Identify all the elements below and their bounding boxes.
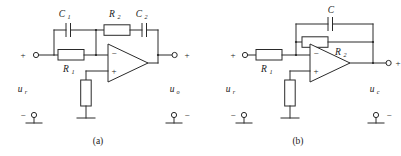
circuit-a-output-plus-sign: + (184, 50, 189, 60)
circuit-a-label-r1-sub: 1 (71, 68, 74, 75)
circuit-a-label-r1: R (62, 64, 69, 74)
circuit-b-resistor-bias (285, 80, 296, 106)
circuit-b-label-c: C (328, 5, 335, 15)
circuit-a-node-output (157, 54, 159, 56)
circuit-b-label-r2-sub: 2 (343, 51, 346, 58)
schematic-canvas: + C 1 R 1 (0, 0, 401, 156)
figure-root: + C 1 R 1 (0, 0, 401, 156)
circuit-a-output-ground-terminal[interactable] (171, 112, 176, 117)
circuit-b-caption: (b) (292, 136, 303, 147)
circuit-a-label-c1: C (59, 9, 66, 19)
circuit-b-input-voltage-label: u (226, 84, 231, 94)
circuit-a-input-voltage-label: u (18, 84, 23, 94)
circuit-a-caption: (a) (93, 136, 104, 147)
circuit-a-opamp-inverting-sign: − (111, 48, 116, 58)
circuit-a-output-voltage-label: u (170, 84, 175, 94)
circuit-b-output-terminal[interactable] (386, 60, 391, 65)
circuit-b-opamp-noninverting-sign: + (313, 66, 318, 76)
circuit-a-input-plus-sign: + (20, 50, 25, 60)
circuit-b-output-voltage-label: u (370, 84, 375, 94)
circuit-b-capacitor-c (328, 18, 333, 31)
circuit-b-output-voltage-label-sub: c (377, 88, 380, 95)
circuit-b-node-output (372, 62, 374, 64)
circuit-a-capacitor-c2 (142, 24, 147, 37)
circuit-a-label-c2-sub: 2 (144, 13, 147, 20)
circuit-a-output-terminal[interactable] (172, 52, 177, 57)
circuit-a-input-voltage-label-sub: r (25, 88, 28, 95)
circuit-a-input-ground-terminal[interactable] (31, 112, 36, 117)
circuit-a-capacitor-c1 (66, 24, 71, 37)
circuit-a-label-r2: R (108, 9, 115, 19)
circuit-a-resistor-r1 (58, 50, 84, 61)
circuit-a-opamp-noninverting-sign: + (111, 66, 116, 76)
circuit-b-resistor-r1 (256, 50, 282, 61)
circuit-a-output-minus-sign: − (184, 110, 189, 120)
circuit-b-resistor-r2 (302, 37, 328, 48)
circuit-b: + R 1 C R (226, 5, 401, 147)
circuit-b-input-plus-sign: + (230, 50, 235, 60)
circuit-b-label-r1-sub: 1 (269, 68, 272, 75)
circuit-a-resistor-r2 (104, 25, 130, 36)
circuit-a: + C 1 R 1 (18, 9, 190, 147)
circuit-a-label-r2-sub: 2 (117, 13, 120, 20)
circuit-a-label-c1-sub: 1 (67, 13, 70, 20)
circuit-a-label-c2: C (136, 9, 143, 19)
circuit-b-input-ground-terminal[interactable] (241, 112, 246, 117)
circuit-b-node-feedback-right (372, 41, 374, 43)
circuit-b-opamp-inverting-sign: − (313, 48, 318, 58)
circuit-b-input-minus-sign: − (230, 110, 235, 120)
circuit-b-node-feedback-left (295, 41, 297, 43)
circuit-b-label-r1: R (260, 64, 267, 74)
circuit-b-input-terminal[interactable] (242, 52, 247, 57)
circuit-b-output-ground-terminal[interactable] (373, 112, 378, 117)
circuit-b-output-minus-sign: − (386, 110, 391, 120)
circuit-b-input-voltage-label-sub: r (233, 88, 236, 95)
circuit-a-resistor-bias (81, 80, 92, 106)
circuit-a-input-minus-sign: − (20, 110, 25, 120)
circuit-a-output-voltage-label-sub: o (176, 88, 179, 95)
circuit-a-input-terminal[interactable] (33, 52, 38, 57)
circuit-b-output-plus-sign: + (395, 58, 400, 68)
